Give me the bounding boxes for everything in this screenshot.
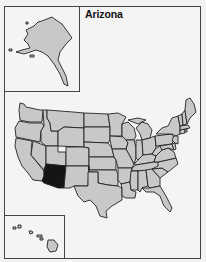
- us-map: AlaskaHawaiiWashingtonOregonCaliforniaId…: [0, 0, 206, 262]
- state-utah: Utah: [46, 146, 66, 166]
- state-rhode-island: Rhode Island: [185, 129, 187, 132]
- state-wisconsin: Wisconsin: [122, 122, 136, 140]
- state-washington: Washington: [19, 103, 43, 122]
- state-south-dakota: South Dakota: [84, 127, 110, 143]
- state-new-jersey: New Jersey: [172, 136, 178, 144]
- state-new-mexico: New Mexico: [64, 166, 89, 188]
- state-florida: Florida: [142, 186, 172, 212]
- state-arizona: Arizona: [42, 164, 66, 188]
- states-layer: AlaskaHawaiiWashingtonOregonCaliforniaId…: [9, 17, 196, 252]
- state-kansas: Kansas: [89, 157, 116, 170]
- state-mississippi: Mississippi: [130, 171, 138, 190]
- state-alaska: Alaska: [9, 17, 72, 86]
- state-maine: Maine: [185, 98, 196, 124]
- state-new-york: New York: [156, 116, 180, 136]
- state-hawaii: Hawaii: [13, 225, 58, 252]
- state-colorado: Colorado: [66, 147, 89, 166]
- state-north-dakota: North Dakota: [84, 113, 110, 127]
- state-wyoming: Wyoming: [58, 127, 84, 147]
